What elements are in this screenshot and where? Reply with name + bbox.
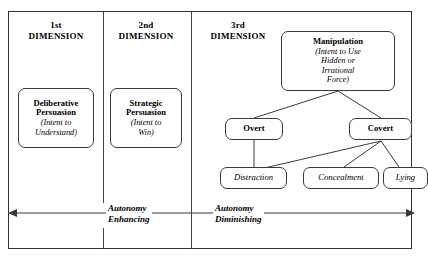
strategic-title-line2: Persuasion: [113, 108, 179, 118]
covert-label: Covert: [352, 124, 409, 134]
autonomy-diminishing-line2: Diminishing: [215, 214, 262, 225]
column-divider-1-lower: [103, 228, 104, 249]
distraction-label: Distraction: [223, 173, 284, 183]
strategic-intent-line1: (Intent to: [113, 118, 179, 128]
autonomy-enhancing-line1: Autonomy: [108, 203, 150, 214]
column-heading-1: 1st DIMENSION: [14, 20, 98, 41]
manipulation-intent-line3: Irrational: [284, 66, 392, 76]
concealment-label: Concealment: [306, 173, 376, 183]
overt-label: Overt: [228, 124, 280, 134]
column-1-dimension: DIMENSION: [14, 31, 98, 42]
manipulation-title: Manipulation: [284, 37, 392, 47]
node-overt[interactable]: Overt: [225, 118, 283, 140]
autonomy-diminishing-line1: Autonomy: [215, 203, 262, 214]
node-strategic-persuasion[interactable]: Strategic Persuasion (Intent to Win): [110, 88, 182, 148]
column-2-dimension: DIMENSION: [104, 31, 188, 42]
column-divider-2-upper: [191, 11, 192, 203]
strategic-intent-line2: Win): [113, 128, 179, 138]
column-2-ordinal: 2nd: [104, 20, 188, 31]
deliberative-intent-line2: Understand): [21, 128, 91, 138]
axis-label-autonomy-diminishing: Autonomy Diminishing: [213, 203, 264, 224]
deliberative-title-line2: Persuasion: [21, 108, 91, 118]
column-3-ordinal: 3rd: [196, 20, 280, 31]
node-covert[interactable]: Covert: [349, 118, 412, 140]
lying-label: Lying: [386, 173, 425, 183]
manipulation-intent-line1: (Intent to Use: [284, 47, 392, 57]
node-concealment[interactable]: Concealment: [303, 167, 379, 189]
node-distraction[interactable]: Distraction: [220, 167, 287, 189]
manipulation-intent-line4: Force): [284, 75, 392, 85]
column-divider-2-lower: [191, 203, 192, 249]
column-1-ordinal: 1st: [14, 20, 98, 31]
manipulation-intent-line2: Hidden or: [284, 56, 392, 66]
column-heading-3: 3rd DIMENSION: [196, 20, 280, 41]
column-heading-2: 2nd DIMENSION: [104, 20, 188, 41]
node-deliberative-persuasion[interactable]: Deliberative Persuasion (Intent to Under…: [18, 88, 94, 148]
node-manipulation[interactable]: Manipulation (Intent to Use Hidden or Ir…: [281, 31, 395, 91]
autonomy-enhancing-line2: Enhancing: [108, 214, 150, 225]
node-lying[interactable]: Lying: [383, 167, 428, 189]
axis-label-autonomy-enhancing: Autonomy Enhancing: [106, 203, 152, 224]
deliberative-intent-line1: (Intent to: [21, 118, 91, 128]
column-3-dimension: DIMENSION: [196, 31, 280, 42]
